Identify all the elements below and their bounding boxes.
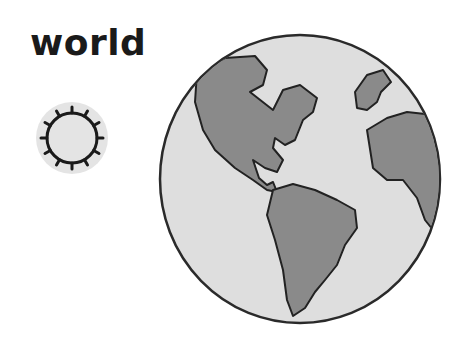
page-title: world	[30, 22, 146, 63]
sun-icon	[34, 100, 110, 176]
globe-icon	[155, 30, 445, 328]
